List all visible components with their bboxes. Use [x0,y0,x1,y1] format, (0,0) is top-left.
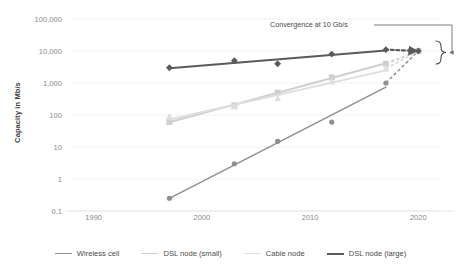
legend-item[interactable]: Cable node [244,249,305,258]
trend-line [169,70,385,119]
series-dsl-node-large [166,46,422,71]
legend-swatch-line-icon [55,253,72,254]
legend-item[interactable]: Wireless cell [55,249,120,258]
chart-legend: Wireless cellDSL node (small)Cable nodeD… [0,249,461,258]
data-point-marker [166,113,173,119]
data-point-marker [383,80,388,85]
data-point-marker [329,119,334,124]
legend-swatch-line-icon [244,253,261,254]
projection-line [386,51,418,64]
data-point-marker [167,196,172,201]
data-point-marker [232,161,237,166]
data-point-marker [275,139,280,144]
data-point-marker [382,46,389,53]
convergence-annotation [374,25,452,64]
legend-label: Cable node [266,249,305,258]
convergence-brace [436,41,446,64]
chart-plot-area [0,0,461,276]
convergence-annotation-label: Convergence at 10 Gb/s [270,20,348,29]
legend-item[interactable]: DSL node (small) [141,249,221,258]
legend-swatch-line-icon [141,253,158,254]
data-point-marker [328,51,335,58]
data-point-marker [274,60,281,67]
legend-swatch-line-icon [327,253,344,255]
data-point-marker [166,64,173,71]
legend-label: DSL node (small) [163,249,221,258]
series-dsl-node-small [166,48,421,125]
chart-root: Capacity in Mb/s 100,00010,0001,00010010… [0,0,461,276]
legend-label: DSL node (large) [349,249,407,258]
projection-line [386,51,418,83]
legend-item[interactable]: DSL node (large) [327,249,407,258]
legend-label: Wireless cell [77,249,120,258]
